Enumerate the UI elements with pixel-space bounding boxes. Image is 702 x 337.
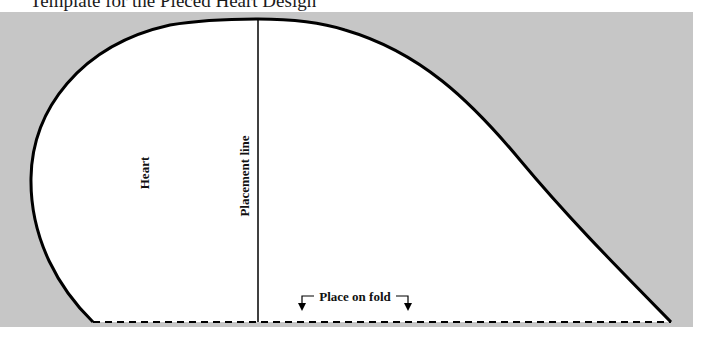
placement-line-label: Placement line: [237, 135, 253, 216]
heart-label: Heart: [137, 157, 153, 189]
place-on-fold-label: Place on fold: [319, 289, 391, 305]
heart-outline: [31, 19, 671, 322]
heart-template-diagram: [0, 0, 702, 337]
